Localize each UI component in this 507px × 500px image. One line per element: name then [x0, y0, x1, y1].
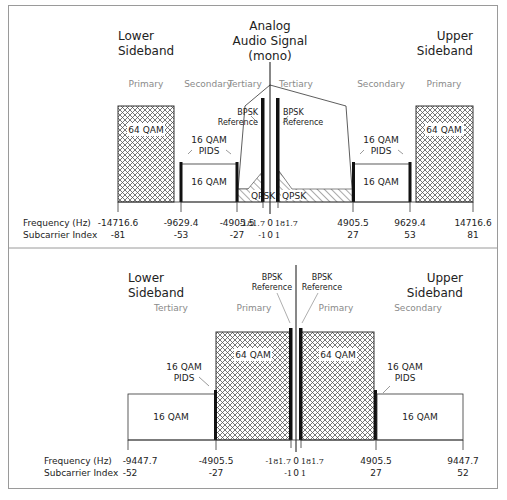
top-tick-idx-5: 1: [275, 231, 280, 240]
bottom-bpsk-lower-line2: Reference: [252, 283, 292, 292]
top-tick-idx-2: -27: [230, 230, 245, 240]
top-region-lower-tertiary: Tertiary: [227, 79, 262, 89]
bottom-lower-64qam-label: 64 QAM: [235, 350, 270, 360]
bottom-bpsk-lower-line1: BPSK: [262, 273, 283, 282]
top-upper-16qam-label: 16 QAM: [363, 177, 398, 187]
top-analog-line1: Analog: [249, 19, 290, 33]
top-region-upper-primary: Primary: [427, 79, 462, 89]
top-bpsk-upper-line1: BPSK: [283, 108, 304, 117]
bottom-tick-freq-5: 4905.5: [360, 456, 392, 466]
bottom-lower-pids-bar: [214, 390, 217, 440]
bottom-region-upper-primary: Primary: [319, 303, 354, 313]
bottom-upper-sideband-line1: Upper: [427, 271, 463, 285]
bottom-upper-sideband-line2: Sideband: [407, 286, 463, 300]
top-upper-pids-bar-1: [352, 162, 355, 202]
bottom-upper-16qam-label: 16 QAM: [402, 412, 437, 422]
top-tick-idx-4: 0: [267, 230, 273, 240]
top-tick-idx-3: -1: [258, 231, 266, 240]
top-lower-primary-box: [118, 106, 174, 202]
top-tick-freq-0: -14716.6: [98, 218, 139, 228]
top-tick-freq-7: 9629.4: [394, 218, 426, 228]
top-axis-frequency-label: Frequency (Hz): [23, 218, 91, 228]
bottom-bpsk-bar-lower: [289, 328, 293, 440]
top-tick-idx-6: 27: [347, 230, 358, 240]
top-axis-index-label: Subcarrier Index: [23, 230, 98, 240]
top-lower-64qam-label: 64 QAM: [128, 125, 163, 135]
top-tick-freq-5: 181.7: [275, 219, 298, 228]
bottom-tick-freq-6: 9447.7: [447, 456, 479, 466]
top-lower-16qam-label: 16 QAM: [191, 177, 226, 187]
top-bpsk-lower-line1: BPSK: [237, 108, 258, 117]
bottom-tick-freq-3: 0: [293, 456, 299, 466]
bottom-upper-pids-bar: [374, 390, 377, 440]
top-tick-freq-4: 0: [267, 218, 273, 228]
bottom-region-lower-tertiary: Tertiary: [153, 303, 188, 313]
top-upper-sideband-line1: Upper: [437, 29, 473, 43]
bottom-bpsk-bar-upper: [299, 328, 303, 440]
top-tick-idx-0: -81: [111, 230, 126, 240]
bottom-tick-idx-1: -27: [209, 468, 224, 478]
top-upper-pids-line1: 16 QAM: [363, 135, 398, 145]
bottom-bpsk-upper-line2: Reference: [302, 283, 342, 292]
top-lower-sideband-line1: Lower: [118, 29, 154, 43]
bottom-tick-idx-3: 0: [293, 468, 299, 478]
bottom-axis-frequency-label: Frequency (Hz): [44, 456, 112, 466]
top-tick-idx-8: 81: [467, 230, 478, 240]
bottom-region-lower-primary: Primary: [237, 303, 272, 313]
top-lower-pids-line1: 16 QAM: [191, 135, 226, 145]
top-upper-pids-bar-2: [409, 162, 412, 202]
top-upper-pids-line2: PIDS: [371, 146, 392, 156]
top-upper-primary-box: [416, 106, 473, 202]
top-upper-64qam-label: 64 QAM: [426, 125, 461, 135]
bottom-region-upper-secondary: Secondary: [394, 303, 442, 313]
bottom-tick-freq-4: 181.7: [301, 457, 324, 466]
top-tick-idx-1: -53: [174, 230, 189, 240]
spectrum-diagrams: Lower Sideband Upper Sideband Analog Aud…: [0, 0, 507, 500]
bottom-tick-idx-4: 1: [301, 469, 306, 478]
top-lower-pids-line2: PIDS: [199, 146, 220, 156]
top-lower-sideband-line2: Sideband: [118, 44, 174, 58]
bottom-lower-pids-line2: PIDS: [174, 373, 195, 383]
top-diagram: Lower Sideband Upper Sideband Analog Aud…: [23, 19, 492, 240]
top-bpsk-upper-line2: Reference: [283, 118, 323, 127]
bottom-bpsk-upper-line1: BPSK: [312, 273, 333, 282]
top-analog-line2: Audio Signal: [233, 34, 308, 48]
top-lower-pids-bar-1: [180, 162, 183, 202]
top-region-upper-secondary: Secondary: [357, 79, 405, 89]
top-tick-freq-6: 4905.5: [337, 218, 369, 228]
bottom-lower-sideband-line2: Sideband: [128, 286, 184, 300]
top-tick-marks: [118, 202, 473, 212]
bottom-lower-sideband-line1: Lower: [128, 271, 164, 285]
top-bpsk-bar-upper: [276, 98, 280, 202]
bottom-tick-freq-1: -4905.5: [199, 456, 234, 466]
bottom-lower-16qam-label: 16 QAM: [153, 412, 188, 422]
top-tick-freq-8: 14716.6: [454, 218, 491, 228]
top-region-lower-primary: Primary: [129, 79, 164, 89]
top-region-lower-secondary: Secondary: [184, 79, 232, 89]
bottom-tick-freq-2: -181.7: [265, 457, 291, 466]
top-bpsk-lower-line2: Reference: [218, 118, 258, 127]
bottom-lower-pids-line1: 16 QAM: [166, 362, 201, 372]
bottom-tick-idx-0: -52: [123, 468, 138, 478]
bottom-tick-idx-2: -1: [284, 469, 292, 478]
top-bpsk-bar-lower: [261, 98, 265, 202]
bottom-upper-64qam-label: 64 QAM: [320, 350, 355, 360]
top-region-upper-tertiary: Tertiary: [278, 79, 313, 89]
top-upper-sideband-line2: Sideband: [417, 44, 473, 58]
bottom-tick-idx-5: 27: [370, 468, 381, 478]
top-lower-pids-bar-2: [236, 162, 239, 202]
bottom-tick-idx-6: 52: [457, 468, 468, 478]
bottom-upper-pids-line1: 16 QAM: [387, 362, 422, 372]
bottom-diagram: Lower Sideband Upper Sideband Tertiary P…: [44, 265, 479, 478]
bottom-upper-pids-line2: PIDS: [395, 373, 416, 383]
bottom-tick-freq-0: -9447.7: [123, 456, 158, 466]
bottom-axis-index-label: Subcarrier Index: [44, 468, 119, 478]
top-upper-qpsk-label: QPSK: [282, 191, 307, 201]
top-analog-line3: (mono): [248, 49, 291, 63]
top-tick-idx-7: 53: [404, 230, 415, 240]
top-tick-freq-1: -9629.4: [164, 218, 199, 228]
top-tick-freq-3: -181.7: [239, 219, 265, 228]
